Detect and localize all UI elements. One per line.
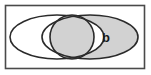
venn-diagram-canvas: b: [0, 0, 151, 75]
set-label-b: b: [102, 30, 110, 45]
venn-diagram-figure: b: [0, 0, 151, 75]
